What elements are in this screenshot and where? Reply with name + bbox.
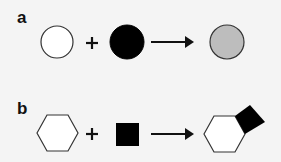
reaction-diagram	[0, 0, 281, 162]
hexagon-square-product	[204, 105, 265, 152]
panel-b	[37, 105, 265, 152]
plus-icon	[86, 37, 98, 49]
panel-a	[41, 25, 244, 59]
white-circle-reactant	[41, 26, 73, 58]
arrow-icon	[151, 36, 194, 48]
arrow-icon	[151, 128, 194, 140]
plus-icon	[86, 128, 98, 140]
black-circle-reactant	[110, 25, 144, 59]
hexagon-reactant	[37, 115, 78, 151]
gray-circle-product	[210, 25, 244, 59]
black-square-reactant	[116, 123, 139, 146]
